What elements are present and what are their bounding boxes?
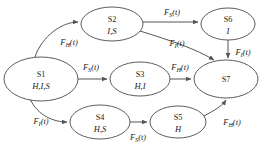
- node-s2[interactable]: S2 I,S: [81, 7, 143, 41]
- node-s2-sub: I,S: [106, 26, 117, 36]
- node-s6[interactable]: S6 I: [201, 8, 255, 40]
- edge-label-s6-to-s7: FI(t): [234, 48, 250, 58]
- edge-label-s5-to-s7: FH(t): [222, 118, 241, 128]
- node-s7[interactable]: S7: [194, 60, 258, 98]
- node-s1-sub: H,I,S: [31, 81, 50, 91]
- node-s1-id: S1: [37, 70, 46, 79]
- node-s5[interactable]: S5 H: [150, 106, 206, 138]
- state-transition-diagram: S1 H,I,S S2 I,S S3 H,I S4 H,S S5: [0, 0, 265, 151]
- node-s2-id: S2: [108, 15, 117, 24]
- edge-label-s3-to-s7: FH(t): [170, 63, 189, 73]
- node-s6-id: S6: [224, 15, 233, 24]
- node-s4-sub: H,S: [93, 124, 107, 134]
- node-s5-sub: H: [174, 124, 182, 134]
- edge-label-s4-to-s5: FS(t): [129, 133, 146, 143]
- edge-s5-to-s7: [204, 100, 226, 116]
- edge-label-s2-to-s7: FI(t): [168, 39, 184, 49]
- edge-label-s2-to-s6: FS(t): [163, 8, 180, 18]
- node-s3-sub: H,I: [133, 81, 146, 91]
- node-s7-id: S7: [222, 75, 231, 84]
- node-s3-id: S3: [136, 70, 145, 79]
- node-s4[interactable]: S4 H,S: [70, 105, 130, 139]
- edge-label-s1-to-s4: FI(t): [32, 117, 48, 127]
- edge-label-s1-to-s2: FH(t): [59, 38, 78, 48]
- node-s3[interactable]: S3 H,I: [110, 62, 170, 96]
- node-s1[interactable]: S1 H,I,S: [4, 57, 78, 101]
- state-diagram-container: S1 H,I,S S2 I,S S3 H,I S4 H,S S5: [0, 0, 265, 151]
- node-s1-shape[interactable]: [4, 57, 78, 101]
- node-s5-id: S5: [174, 113, 183, 122]
- edge-label-s1-to-s3: FS(t): [82, 63, 99, 73]
- node-s4-id: S4: [96, 113, 105, 122]
